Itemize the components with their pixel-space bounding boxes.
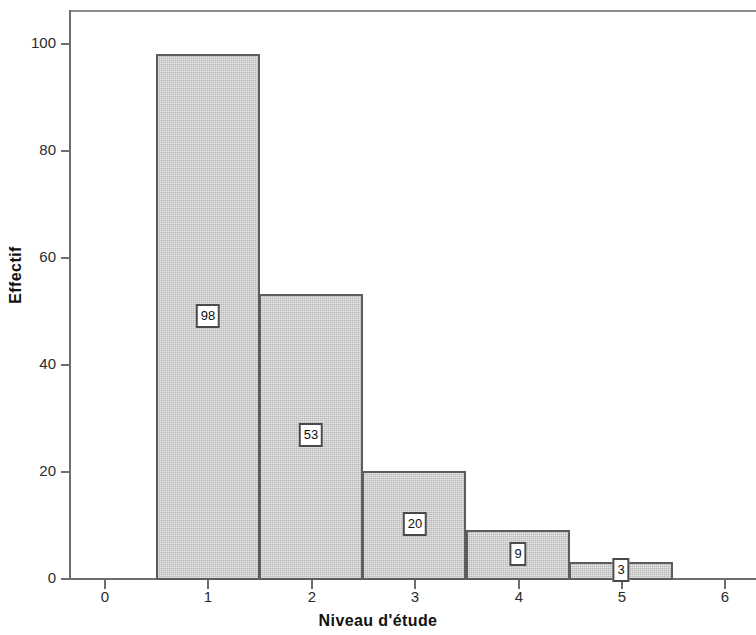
y-tick-mark-100 — [61, 43, 69, 45]
bar-value-label-5: 3 — [612, 558, 629, 582]
x-tick-label-5: 5 — [602, 588, 642, 605]
y-tick-label-0: 0 — [0, 569, 56, 586]
y-tick-mark-20 — [61, 471, 69, 473]
x-axis-title: Niveau d'étude — [0, 612, 756, 630]
y-tick-mark-0 — [61, 578, 69, 580]
y-tick-label-100: 100 — [0, 34, 56, 51]
x-tick-label-4: 4 — [499, 588, 539, 605]
y-tick-mark-40 — [61, 364, 69, 366]
y-axis-title: Effectif — [7, 215, 25, 335]
bar-value-label-1: 98 — [196, 304, 220, 328]
y-tick-mark-80 — [61, 150, 69, 152]
bar-value-label-4: 9 — [509, 542, 526, 566]
plot-top-border — [69, 10, 756, 12]
histogram-chart: 100 80 60 40 20 0 0 1 2 3 4 5 6 98 53 20… — [0, 0, 756, 635]
y-axis-line — [69, 10, 71, 578]
y-tick-mark-60 — [61, 257, 69, 259]
bar-value-label-2: 53 — [299, 423, 323, 447]
x-tick-label-1: 1 — [188, 588, 228, 605]
x-tick-label-6: 6 — [705, 588, 745, 605]
bar-value-label-3: 20 — [403, 512, 427, 536]
y-tick-label-40: 40 — [0, 355, 56, 372]
x-tick-label-2: 2 — [292, 588, 332, 605]
y-tick-label-20: 20 — [0, 462, 56, 479]
y-tick-label-80: 80 — [0, 141, 56, 158]
x-tick-label-0: 0 — [85, 588, 125, 605]
x-tick-label-3: 3 — [395, 588, 435, 605]
